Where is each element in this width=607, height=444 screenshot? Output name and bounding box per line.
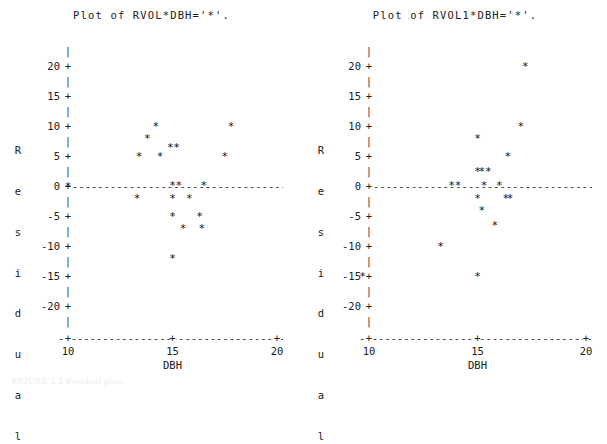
y-axis-minor-mark: | bbox=[366, 165, 372, 177]
y-axis-minor-mark: | bbox=[65, 195, 71, 207]
y-axis-tick-label: -10 bbox=[26, 240, 60, 252]
x-axis-label: DBH bbox=[163, 359, 182, 371]
data-point: * bbox=[175, 179, 182, 190]
y-axis-tick-label: 5 bbox=[26, 150, 60, 162]
data-point: * bbox=[180, 223, 187, 234]
y-axis-minor-mark: | bbox=[65, 165, 71, 177]
y-axis-minor-mark: | bbox=[366, 135, 372, 147]
data-point: * bbox=[134, 193, 141, 204]
data-point: * bbox=[228, 121, 235, 132]
y-axis-minor-mark: | bbox=[65, 285, 71, 297]
plot-panel-left: Plot of RVOL*DBH='*'. R e s i d u a l 20… bbox=[0, 0, 303, 385]
x-axis-tick-label: 20 bbox=[580, 345, 593, 357]
y-axis-tick-label: -20 bbox=[327, 300, 361, 312]
y-axis-tick-label: 15 bbox=[26, 90, 60, 102]
x-axis-tick-mark: + bbox=[169, 332, 175, 344]
x-axis-tick-label: 20 bbox=[271, 345, 284, 357]
y-axis-tick-label: -5 bbox=[26, 210, 60, 222]
y-axis-tick-mark: + bbox=[65, 60, 71, 72]
plot-title-left: Plot of RVOL*DBH='*'. bbox=[0, 9, 303, 21]
y-axis-minor-mark: | bbox=[65, 105, 71, 117]
x-axis-tick-label: 10 bbox=[62, 345, 75, 357]
data-point: * bbox=[481, 179, 488, 190]
data-point: * bbox=[169, 253, 176, 264]
x-axis-tick-mark: + bbox=[583, 332, 589, 344]
y-axis-tick-mark: + bbox=[65, 210, 71, 222]
data-point: * bbox=[496, 179, 503, 190]
y-axis-label-char: i bbox=[315, 267, 327, 281]
y-axis-minor-mark: | bbox=[366, 315, 372, 327]
y-axis-minor-mark: | bbox=[366, 105, 372, 117]
y-axis-tick-mark: + bbox=[65, 90, 71, 102]
y-axis-label-char: e bbox=[315, 185, 327, 199]
y-axis-tick-mark: + bbox=[65, 300, 71, 312]
y-axis-tick-mark: + bbox=[366, 300, 372, 312]
y-axis-minor-mark: | bbox=[366, 285, 372, 297]
y-axis-tick-label: 10 bbox=[327, 120, 361, 132]
plot-title-right: Plot of RVOL1*DBH='*'. bbox=[303, 9, 607, 21]
y-axis-minor-mark: | bbox=[65, 225, 71, 237]
y-axis-label-char: a bbox=[12, 389, 24, 403]
y-axis-minor-mark: | bbox=[65, 75, 71, 87]
data-point: * bbox=[198, 223, 205, 234]
data-point: * bbox=[65, 181, 72, 192]
data-point: * bbox=[173, 142, 180, 153]
y-axis-label-char: a bbox=[315, 389, 327, 403]
x-axis-tick-label: 15 bbox=[166, 345, 179, 357]
y-axis-label-char: R bbox=[315, 144, 327, 158]
y-axis-label-right: R e s i d u a l bbox=[315, 117, 327, 444]
x-axis-tick-label: 15 bbox=[471, 345, 484, 357]
y-axis-label-char: l bbox=[315, 430, 327, 444]
data-point: * bbox=[474, 193, 481, 204]
data-point: * bbox=[505, 151, 512, 162]
data-point: * bbox=[186, 193, 193, 204]
y-axis-tick-label: -5 bbox=[327, 210, 361, 222]
y-axis-minor-mark: | bbox=[366, 45, 372, 57]
y-axis-label-char: e bbox=[12, 185, 24, 199]
data-point: * bbox=[474, 271, 481, 282]
data-point: * bbox=[522, 61, 529, 72]
y-axis-minor-mark: | bbox=[366, 195, 372, 207]
y-axis-tick-label: -10 bbox=[327, 240, 361, 252]
y-axis-minor-mark: | bbox=[366, 255, 372, 267]
y-axis-label-char: i bbox=[12, 267, 24, 281]
y-axis-tick-label: 20 bbox=[26, 60, 60, 72]
data-point: * bbox=[196, 211, 203, 222]
y-axis-tick-mark: + bbox=[65, 120, 71, 132]
y-axis-tick-label: 15 bbox=[327, 90, 361, 102]
y-axis-tick-mark: + bbox=[65, 270, 71, 282]
data-point: * bbox=[518, 121, 525, 132]
data-point: * bbox=[359, 271, 366, 282]
data-point: * bbox=[485, 166, 492, 177]
y-axis-tick-label: 0 bbox=[327, 180, 361, 192]
y-axis-minor-mark: | bbox=[65, 135, 71, 147]
y-axis-tick-mark: + bbox=[65, 150, 71, 162]
data-point: * bbox=[201, 179, 208, 190]
y-axis-tick-label: 0 bbox=[26, 180, 60, 192]
x-axis-tick-mark: + bbox=[65, 332, 71, 344]
y-axis-minor-mark: | bbox=[366, 75, 372, 87]
y-axis-tick-mark: + bbox=[65, 240, 71, 252]
y-axis-minor-mark: | bbox=[366, 225, 372, 237]
data-point: * bbox=[474, 133, 481, 144]
data-point: * bbox=[455, 179, 462, 190]
data-point: * bbox=[169, 211, 176, 222]
y-axis-label-char: R bbox=[12, 144, 24, 158]
y-axis-minor-mark: | bbox=[65, 315, 71, 327]
data-point: * bbox=[492, 220, 499, 231]
data-point: * bbox=[152, 121, 159, 132]
y-axis-label-char: l bbox=[12, 430, 24, 444]
data-point: * bbox=[144, 133, 151, 144]
y-axis-minor-mark: | bbox=[65, 255, 71, 267]
x-axis-tick-mark: + bbox=[474, 332, 480, 344]
x-axis-label: DBH bbox=[468, 359, 487, 371]
figure-caption: FIGURE 3.3 Residual plots bbox=[12, 376, 124, 386]
y-axis-tick-mark: + bbox=[366, 60, 372, 72]
data-point: * bbox=[221, 151, 228, 162]
y-axis-label-char: d bbox=[315, 307, 327, 321]
data-point: * bbox=[479, 205, 486, 216]
y-axis-tick-mark: + bbox=[366, 240, 372, 252]
x-axis-tick-mark: + bbox=[274, 332, 280, 344]
y-axis-label-char: s bbox=[12, 226, 24, 240]
plot-panel-right: Plot of RVOL1*DBH='*'. R e s i d u a l 2… bbox=[303, 0, 607, 385]
